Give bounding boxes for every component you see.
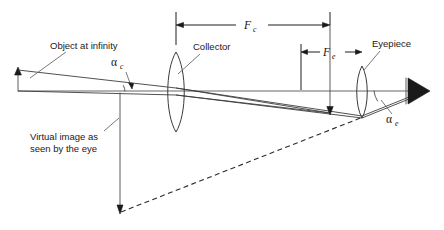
eye-triangle — [408, 78, 430, 104]
alpha-c-leader-head — [129, 83, 134, 89]
incoming-rays — [18, 70, 330, 113]
dimension-fe: F e — [301, 44, 362, 90]
object-at-infinity-label: Object at infinity — [50, 40, 118, 51]
collector-lens-body — [168, 52, 185, 132]
fc-arrowhead-left — [176, 22, 184, 27]
ray-diagram-canvas: F c F e — [0, 0, 444, 230]
alpha-e-arc — [374, 91, 378, 101]
alpha-c-arc — [124, 86, 126, 91]
virtual-ray-dashed — [121, 117, 363, 212]
fc-label-subscript: c — [253, 25, 257, 34]
alpha-e-subscript: e — [395, 119, 399, 128]
virtual-image-label-line1: Virtual image as — [30, 131, 98, 142]
fc-label: F — [243, 19, 252, 31]
virtual-image-label-leader — [104, 118, 119, 131]
focal-plane-arrow — [327, 25, 333, 115]
collector-lens — [168, 52, 185, 132]
eyepiece-lens-body — [357, 66, 368, 118]
optical-diagram: F c F e — [0, 0, 444, 230]
ray-to-eye-upper — [176, 88, 424, 116]
eyepiece-lens — [357, 66, 368, 118]
alpha-c-subscript: c — [120, 62, 124, 71]
fc-arrowhead-right — [323, 22, 331, 27]
angle-marker-alpha-c — [124, 72, 134, 91]
alpha-e-symbol: α — [386, 113, 392, 125]
object-arrowhead — [15, 67, 22, 75]
collector-label: Collector — [193, 41, 231, 52]
virtual-image-label-line2: seen by the eye — [30, 143, 97, 154]
fe-label-subscript: e — [332, 52, 336, 61]
virtual-image-arrow — [117, 93, 123, 214]
alpha-c-symbol: α — [111, 56, 117, 68]
fe-arrowhead-left — [301, 50, 308, 55]
object-label-leader — [30, 52, 66, 78]
fe-arrowhead-right — [356, 50, 363, 55]
eyepiece-label-leader — [364, 51, 380, 70]
eyepiece-label: Eyepiece — [372, 38, 411, 49]
ray-lower — [18, 91, 330, 113]
ray-upper — [18, 70, 330, 113]
eye-symbol — [406, 78, 430, 104]
virtual-image-arrowhead — [117, 205, 123, 214]
